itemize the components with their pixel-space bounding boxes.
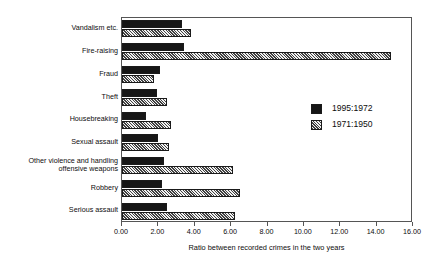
y-axis-label: Other violence and handling offensive we… xyxy=(2,157,118,174)
bar-series-2 xyxy=(122,189,240,197)
x-axis-tick-label: 0.00 xyxy=(114,227,128,236)
bar-series-1 xyxy=(122,66,160,74)
x-axis-tick-mark xyxy=(157,222,158,226)
bar-series-1 xyxy=(122,20,182,28)
x-axis-tick-mark xyxy=(303,222,304,226)
bar-series-1 xyxy=(122,112,146,120)
x-axis-tick-mark xyxy=(376,222,377,226)
bar-series-2 xyxy=(122,166,233,174)
x-axis-title: Ratio between recorded crimes in the two… xyxy=(121,243,412,252)
bar-series-2 xyxy=(122,121,171,129)
bar-series-1 xyxy=(122,203,167,211)
y-axis-label: Sexual assault xyxy=(2,138,118,146)
x-axis-tick-label: 4.00 xyxy=(187,227,201,236)
x-axis-tick-mark xyxy=(121,222,122,226)
legend-label: 1971:1950 xyxy=(332,119,373,130)
bar-group xyxy=(122,203,411,221)
x-axis-tick-mark xyxy=(194,222,195,226)
bar-series-2 xyxy=(122,212,235,220)
y-axis-label: Serious assault xyxy=(2,206,118,214)
bar-group xyxy=(122,180,411,198)
x-axis-tick-label: 12.00 xyxy=(330,227,348,236)
y-axis-category-labels: Vandalism etc.Fire-raisingFraudTheftHous… xyxy=(0,17,118,222)
chart-legend: 1995:1972 1971:1950 xyxy=(311,102,406,134)
bar-series-1 xyxy=(122,134,158,142)
legend-item-1995-1972: 1995:1972 xyxy=(311,102,406,116)
bar-group xyxy=(122,157,411,175)
bar-chart: Vandalism etc.Fire-raisingFraudTheftHous… xyxy=(0,0,432,266)
bar-group xyxy=(122,134,411,152)
x-axis-tick-mark xyxy=(339,222,340,226)
legend-item-1971-1950: 1971:1950 xyxy=(311,118,406,132)
x-axis-tick-mark xyxy=(267,222,268,226)
bar-series-1 xyxy=(122,157,164,165)
bar-series-2 xyxy=(122,98,167,106)
bar-group xyxy=(122,43,411,61)
bar-series-2 xyxy=(122,75,154,83)
x-axis-tick-label: 10.00 xyxy=(294,227,312,236)
bar-series-1 xyxy=(122,180,162,188)
bar-series-1 xyxy=(122,89,157,97)
x-axis-tick-mark xyxy=(412,222,413,226)
y-axis-label: Fire-raising xyxy=(2,47,118,55)
x-axis-tick-label: 6.00 xyxy=(223,227,237,236)
y-axis-label: Robbery xyxy=(2,184,118,192)
legend-label: 1995:1972 xyxy=(332,103,373,114)
y-axis-label: Fraud xyxy=(2,70,118,78)
y-axis-label: Theft xyxy=(2,93,118,101)
bar-series-2 xyxy=(122,52,391,60)
legend-swatch-solid-icon xyxy=(311,104,322,114)
bar-series-2 xyxy=(122,143,169,151)
x-axis-tick-label: 2.00 xyxy=(150,227,164,236)
x-axis-tick-label: 14.00 xyxy=(367,227,385,236)
bar-group xyxy=(122,66,411,84)
bar-series-1 xyxy=(122,43,184,51)
x-axis-tick-label: 16.00 xyxy=(403,227,421,236)
bar-group xyxy=(122,20,411,38)
y-axis-label: Housebreaking xyxy=(2,115,118,123)
x-axis-tick-label: 8.00 xyxy=(260,227,274,236)
legend-swatch-hatched-icon xyxy=(311,120,322,130)
bar-series-2 xyxy=(122,29,191,37)
y-axis-label: Vandalism etc. xyxy=(2,24,118,32)
x-axis-tick-mark xyxy=(230,222,231,226)
